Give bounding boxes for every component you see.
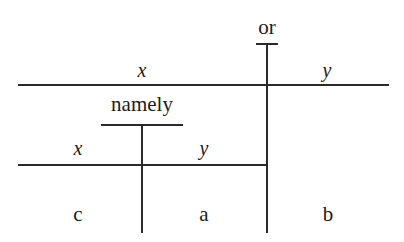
upper-horizontal-rule <box>18 84 389 86</box>
lower-horizontal-rule <box>18 164 267 166</box>
operator-namely-label: namely <box>111 94 173 115</box>
operator-or-label: or <box>258 17 276 38</box>
operator-or-stem <box>266 43 268 233</box>
sub-left-label-x: x <box>74 138 83 158</box>
leaf-b: b <box>323 204 334 225</box>
top-right-label-y: y <box>323 60 332 80</box>
sub-right-label-y: y <box>200 138 209 158</box>
leaf-c: c <box>73 204 82 225</box>
leaf-a: a <box>199 204 208 225</box>
operator-namely-stem <box>141 124 143 233</box>
top-left-label-x: x <box>138 60 147 80</box>
